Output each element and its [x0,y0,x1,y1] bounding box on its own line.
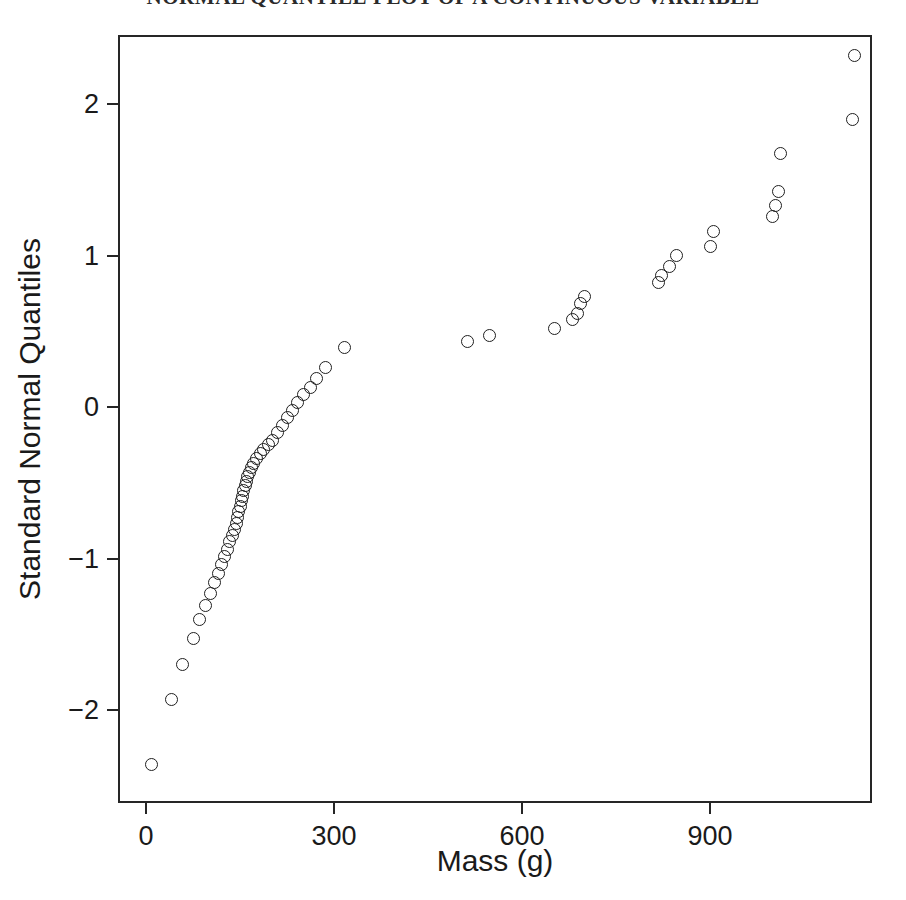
y-tick-label-0: 0 [84,392,99,423]
y-tick-label-2: 2 [84,89,99,120]
y-tick--2 [107,709,118,711]
y-tick-2 [107,103,118,105]
y-axis-label: Standard Normal Quantiles [13,238,47,600]
y-tick-0 [107,406,118,408]
y-tick-label--1: −1 [68,543,99,574]
plot-frame [118,35,872,803]
y-tick-label--2: −2 [68,695,99,726]
x-tick-label-300: 300 [311,821,356,852]
x-tick-300 [333,803,335,814]
chart-title-clipped: NORMAL QUANTILE PLOT OF A CONTINUOUS VAR… [0,0,906,9]
y-tick--1 [107,558,118,560]
x-tick-0 [145,803,147,814]
x-tick-label-900: 900 [687,821,732,852]
qq-plot-figure: NORMAL QUANTILE PLOT OF A CONTINUOUS VAR… [0,0,906,900]
x-tick-900 [709,803,711,814]
x-tick-600 [521,803,523,814]
x-tick-label-600: 600 [499,821,544,852]
chart-title-text: NORMAL QUANTILE PLOT OF A CONTINUOUS VAR… [146,0,759,9]
y-tick-1 [107,255,118,257]
y-tick-label-1: 1 [84,240,99,271]
x-tick-label-0: 0 [138,821,153,852]
